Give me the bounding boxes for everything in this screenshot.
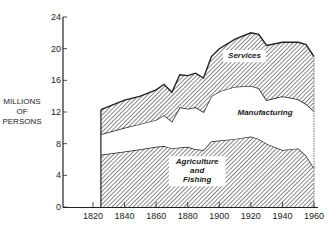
x-tick-label: 1860: [146, 211, 166, 221]
x-tick-label: 1940: [272, 211, 292, 221]
x-tick-label: 1960: [304, 211, 324, 221]
area-label: and: [190, 166, 205, 175]
area-label: Fishing: [183, 175, 212, 184]
x-tick-label: 1840: [115, 211, 135, 221]
y-axis-label: PERSONS: [2, 117, 41, 126]
y-tick-label: 0: [56, 202, 61, 212]
area-label: Services: [228, 51, 261, 60]
y-tick-label: 24: [51, 12, 61, 22]
x-tick-label: 1880: [178, 211, 198, 221]
stacked-area-chart: 0481216202418201840186018801900192019401…: [0, 0, 336, 228]
x-tick-label: 1820: [83, 211, 103, 221]
y-tick-label: 20: [51, 44, 61, 54]
y-axis-label: MILLIONS: [3, 97, 40, 106]
x-tick-label: 1900: [209, 211, 229, 221]
area-label: Manufacturing: [238, 108, 293, 117]
y-axis-label: OF: [16, 107, 27, 116]
area-label: Agriculture: [175, 157, 219, 166]
x-tick-label: 1920: [241, 211, 261, 221]
y-tick-label: 8: [56, 139, 61, 149]
y-tick-label: 4: [56, 170, 61, 180]
y-tick-label: 16: [51, 75, 61, 85]
y-tick-label: 12: [51, 107, 61, 117]
